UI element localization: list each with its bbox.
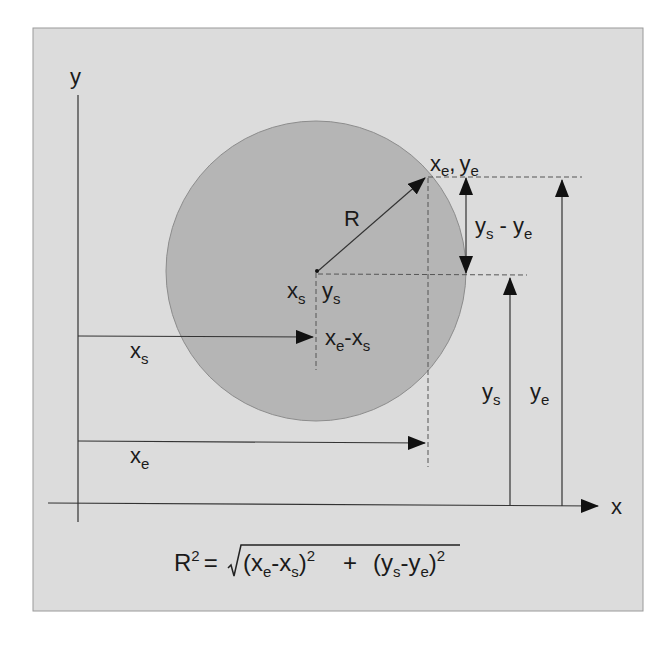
circle-radius-diagram: y x R xe,ye ys - ye xs ys xe-xs xs xe y	[0, 0, 670, 649]
formula-plus: +	[343, 549, 357, 576]
radius-label: R	[344, 206, 360, 231]
y-axis-label: y	[70, 64, 81, 89]
dy-label: ys - ye	[475, 213, 532, 242]
formula-term2: (ys-ye)2	[373, 547, 445, 580]
center-point	[315, 269, 319, 273]
x-axis-label: x	[611, 494, 622, 519]
formula-term1: (xe-xs)2	[243, 547, 315, 580]
